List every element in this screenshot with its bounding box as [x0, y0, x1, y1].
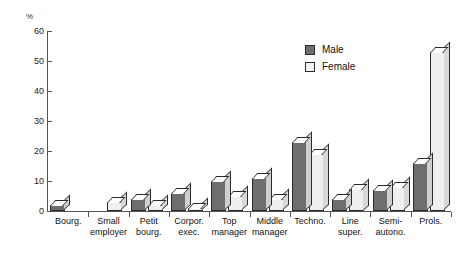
bar-group [209, 31, 249, 211]
y-tick-label-10: 10 [20, 177, 44, 185]
x-label-line: Prols. [411, 216, 451, 227]
x-label: Linesuper. [330, 216, 370, 238]
x-label-line: Petit [129, 216, 169, 227]
x-label: Middlemanager [250, 216, 290, 238]
bar-male [252, 178, 267, 211]
x-label: Topmanager [209, 216, 249, 238]
category-separator [129, 212, 130, 217]
x-label: Corpor.exec. [169, 216, 209, 238]
plot-area [48, 31, 451, 211]
x-label-line: super. [330, 227, 370, 238]
x-label-line: Bourg. [48, 216, 88, 227]
y-tick-label-40: 40 [20, 87, 44, 95]
bar-group [370, 31, 410, 211]
bar-male [332, 199, 347, 211]
bar-male [373, 190, 388, 211]
category-separator [209, 212, 210, 217]
bar-side-face [363, 178, 369, 210]
bar-side-face [283, 189, 289, 210]
bar-side-face [444, 42, 450, 210]
category-separator [330, 212, 331, 217]
x-label-line: Middle [250, 216, 290, 227]
bar-group [48, 31, 88, 211]
x-label: Bourg. [48, 216, 88, 227]
y-axis-unit-label: % [26, 12, 33, 21]
x-label-line: Techno. [290, 216, 330, 227]
x-label-line: employer [88, 227, 128, 238]
legend-label-male: Male [322, 44, 344, 55]
bar-male [413, 163, 428, 211]
category-separator [411, 212, 412, 217]
y-tick-label-60: 60 [20, 27, 44, 35]
bar-group [88, 31, 128, 211]
x-label-line: Small [88, 216, 128, 227]
bar-female [107, 202, 122, 211]
bar-group [129, 31, 169, 211]
bar-female [148, 205, 163, 211]
category-separator [88, 212, 89, 217]
y-tick-label-50: 50 [20, 57, 44, 65]
legend-item-female: Female [305, 58, 355, 75]
bar-side-face [121, 192, 127, 210]
x-label: Techno. [290, 216, 330, 227]
category-separator [290, 212, 291, 217]
male-swatch-icon [305, 45, 315, 55]
y-tick-label-20: 20 [20, 147, 44, 155]
bar-side-face [306, 132, 312, 210]
bar-male [292, 142, 307, 211]
x-label-line: autono. [370, 227, 410, 238]
bar-side-face [242, 186, 248, 210]
x-label-line: Corpor. [169, 216, 209, 227]
bar-chart: % 0102030405060 Bourg.SmallemployerPetit… [0, 0, 467, 264]
x-label-line: Semi- [370, 216, 410, 227]
bar-side-face [323, 144, 329, 210]
female-swatch-icon [305, 62, 315, 72]
x-label: Smallemployer [88, 216, 128, 238]
x-label: Petitbourg. [129, 216, 169, 238]
category-separator [250, 212, 251, 217]
bar-group [169, 31, 209, 211]
y-tick-label-0: 0 [20, 207, 44, 215]
x-label-line: manager [209, 227, 249, 238]
x-label: Prols. [411, 216, 451, 227]
x-label-line: bourg. [129, 227, 169, 238]
bar-group [411, 31, 451, 211]
bar-male [211, 181, 226, 211]
legend-label-female: Female [322, 61, 355, 72]
bar-male [171, 193, 186, 211]
y-tick-label-30: 30 [20, 117, 44, 125]
bar-male [131, 199, 146, 211]
bar-group [250, 31, 290, 211]
x-label: Semi-autono. [370, 216, 410, 238]
y-tick-0 [48, 211, 52, 212]
legend-item-male: Male [305, 41, 355, 58]
category-separator [169, 212, 170, 217]
x-label-line: Line [330, 216, 370, 227]
legend: Male Female [305, 41, 355, 75]
x-label-line: Top [209, 216, 249, 227]
x-label-line: manager [250, 227, 290, 238]
bar-female [188, 208, 203, 211]
category-separator-end [451, 212, 452, 217]
x-label-line: exec. [169, 227, 209, 238]
category-separator [370, 212, 371, 217]
bar-male [50, 205, 65, 211]
